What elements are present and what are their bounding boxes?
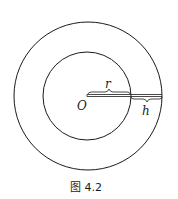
outer-circle	[14, 22, 162, 170]
ring-width-segment	[131, 95, 162, 97]
figure-caption: 图 4.2	[70, 181, 102, 194]
radius-segment	[87, 95, 131, 97]
center-label: O	[77, 99, 87, 113]
radius-label: r	[105, 77, 112, 91]
ring-width-label: h	[142, 104, 150, 118]
h-brace	[131, 97, 162, 102]
annulus-diagram: O r h 图 4.2	[0, 0, 178, 199]
